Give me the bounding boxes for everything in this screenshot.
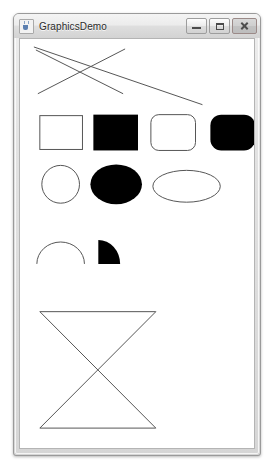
java-coffee-cup-icon [19, 19, 34, 34]
maximize-button[interactable] [209, 18, 230, 34]
window-title: GraphicsDemo [39, 21, 186, 32]
draw-oval-wide-outline [153, 170, 220, 202]
shapes-svg [20, 39, 254, 448]
fill-arc-pie-wedge [98, 240, 120, 264]
draw-rect-outline [40, 116, 83, 150]
application-window: GraphicsDemo [13, 13, 261, 456]
maximize-icon [216, 23, 224, 30]
fill-rect-solid [93, 115, 138, 151]
draw-round-rect-outline [151, 115, 196, 151]
window-titlebar[interactable]: GraphicsDemo [14, 14, 260, 38]
screenshot-root: GraphicsDemo [0, 0, 275, 472]
fill-round-rect-solid [210, 115, 254, 151]
close-button[interactable] [232, 18, 257, 34]
close-icon [233, 19, 256, 33]
fill-oval-solid [90, 164, 142, 204]
draw-polygon-bowtie [40, 312, 156, 428]
drawn-line-diagonal-down [34, 47, 203, 105]
draw-arc-half-dome-outline [37, 242, 85, 264]
graphics-demo-canvas [19, 38, 255, 449]
drawn-line-x-stroke-up [38, 49, 125, 94]
minimize-button[interactable] [186, 18, 207, 34]
window-controls [186, 18, 257, 34]
draw-oval-circle-outline [42, 165, 80, 203]
minimize-icon [192, 27, 201, 29]
